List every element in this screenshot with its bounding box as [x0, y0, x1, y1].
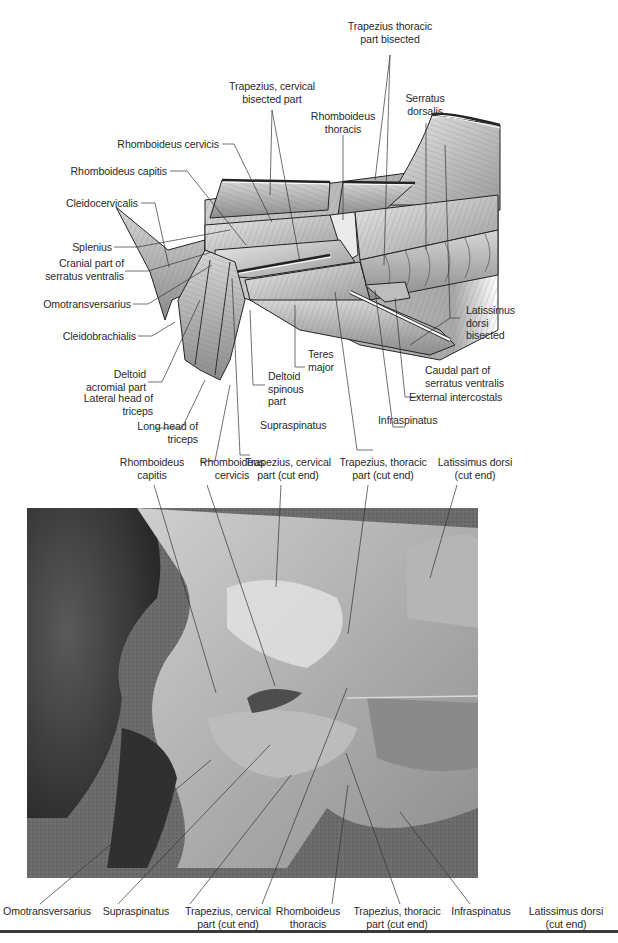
photo-label-trapezius-thoracic-cut: Trapezius, thoracic part (cut end) — [347, 905, 447, 930]
photo-label-infraspinatus: Infraspinatus — [446, 905, 516, 918]
photo-label-latissimus-cut: Latissimus dorsi (cut end) — [516, 905, 616, 930]
photo-label-supraspinatus: Supraspinatus — [98, 905, 174, 918]
photo-label-rhomboideus-thoracis: Rhomboideus thoracis — [268, 905, 348, 930]
photo-label-trapezius-thoracic-cut: Trapezius, thoracic part (cut end) — [333, 456, 433, 481]
anatomy-figure: Trapezius thoracic part bisected Trapezi… — [0, 0, 618, 943]
photo-label-rhomboideus-capitis: Rhomboideus capitis — [112, 456, 192, 481]
photo-label-latissimus-cut: Latissimus dorsi (cut end) — [425, 456, 525, 481]
photo-label-trapezius-cervical-cut: Trapezius, cervical part (cut end) — [178, 905, 278, 930]
bottom-rule — [0, 930, 618, 933]
photo-label-omotransversarius: Omotransversarius — [0, 905, 94, 918]
photo-label-trapezius-cervical-cut: Trapezius, cervical part (cut end) — [238, 456, 338, 481]
